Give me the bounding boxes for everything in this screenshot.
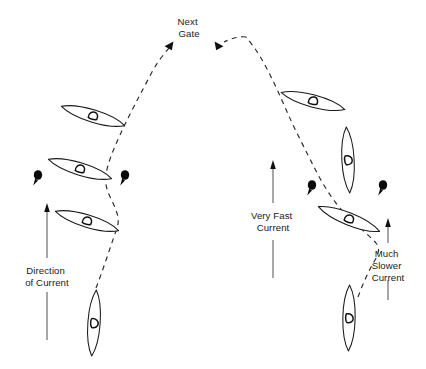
kayak-left-bottom	[86, 290, 103, 357]
very-fast-current-label: Very Fast Current	[251, 210, 295, 233]
next-gate-label: Next Gate	[178, 16, 201, 39]
next-gate-label-line1: Next	[178, 16, 198, 27]
much-slower-current-line3: Current	[372, 272, 405, 283]
next-gate-label-line2: Gate	[178, 28, 199, 39]
direction-of-current-label: Direction of Current	[25, 265, 69, 288]
kayak-right-bottom	[342, 285, 355, 351]
kayak-right-upper	[280, 87, 347, 116]
gate-pole-left-inner	[120, 170, 129, 185]
kayak-right-lower	[316, 201, 382, 237]
kayak-current-diagram: Next Gate Direction of Current Very Fast…	[0, 0, 426, 369]
much-slower-current-line2: Slower	[372, 260, 403, 271]
much-slower-current-arrow	[385, 218, 391, 300]
direction-of-current-line2: of Current	[25, 277, 69, 288]
kayak-left-middle	[47, 153, 114, 184]
gate-pole-left-outer	[33, 170, 42, 185]
much-slower-current-label: Much Slower Current	[372, 248, 405, 283]
direction-of-current-line1: Direction	[26, 265, 65, 276]
gate-pole-right-outer	[378, 180, 387, 195]
left-kayak-track	[96, 42, 174, 289]
very-fast-current-line1: Very Fast	[251, 210, 293, 221]
diagram-canvas: Next Gate Direction of Current Very Fast…	[0, 0, 426, 369]
very-fast-current-line2: Current	[257, 222, 290, 233]
kayak-left-upper	[60, 100, 127, 131]
gate-pole-right-inner	[307, 180, 316, 195]
much-slower-current-line1: Much	[375, 248, 399, 259]
kayak-left-lower	[54, 205, 121, 236]
kayak-right-middle	[340, 127, 356, 194]
